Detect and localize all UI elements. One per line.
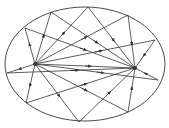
arrow-icon [97, 72, 103, 73]
arrow-icon [81, 84, 86, 86]
arrow-icon [80, 48, 86, 50]
arrow-icon [82, 88, 87, 90]
arrow-icon [62, 33, 65, 36]
arrow-icon [112, 38, 114, 41]
arrow-icon [43, 35, 44, 38]
arrow-icon [144, 54, 145, 55]
arrow-icon [107, 92, 110, 95]
arrow-icon [145, 73, 146, 74]
right-focus [133, 66, 137, 70]
arrow-icon [95, 51, 101, 52]
ellipse-boundary [5, 7, 165, 121]
ellipse-reflection-diagram [0, 0, 169, 128]
left-focus [33, 62, 37, 66]
arrow-icon [57, 93, 59, 96]
arrow-icon [82, 37, 87, 39]
arrow-icon [93, 40, 97, 43]
arrow-icon [30, 44, 31, 46]
